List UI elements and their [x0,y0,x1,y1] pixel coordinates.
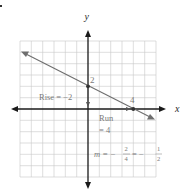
slope-eq2: = − [132,149,144,159]
x-axis-right-arrow-icon [159,106,166,112]
x-axis-left-arrow-icon [11,106,18,112]
y-axis-down-arrow-icon [85,182,91,189]
x-intercept-label: 4 [130,95,135,105]
run-label: Run [99,113,114,123]
rise-arrow-icon [86,102,90,107]
slope-frac2-den: 2 [157,155,160,162]
coordinate-graph: y x 2 4 Rise = −2 Run = 4 m = − 2 4 = − … [0,0,187,195]
slope-frac1-num: 2 [125,145,128,152]
y-intercept-label: 2 [90,75,95,85]
slope-frac1-den: 4 [125,155,129,162]
line-left-arrow-icon [21,52,29,58]
x-axis-label: x [174,103,180,114]
slope-m: m = − [94,149,116,159]
slope-formula: m = − 2 4 = − 1 2 [94,145,162,162]
slope-frac2-num: 1 [157,145,160,152]
y-axis-up-arrow-icon [85,30,91,37]
run-arrow-icon [126,107,131,111]
run-value: = 4 [99,125,111,135]
corner-mark [0,5,2,7]
y-axis-label: y [84,11,90,22]
x-intercept-point [131,107,135,111]
line-right-arrow-icon [147,114,155,120]
rise-label: Rise = −2 [39,92,72,102]
